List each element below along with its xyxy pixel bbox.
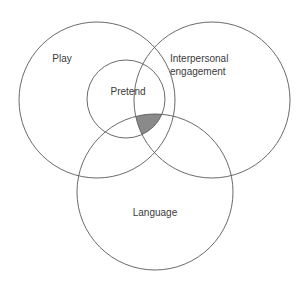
circle-language — [77, 114, 233, 270]
label-pretend: Pretend — [110, 86, 145, 97]
label-interpersonal-engagement-line2: engagement — [170, 66, 226, 77]
venn-diagram-canvas: Play Interpersonal engagement Language P… — [0, 0, 307, 282]
circle-interpersonal-engagement — [134, 22, 290, 178]
venn-diagram-figure: Play Interpersonal engagement Language P… — [0, 0, 307, 282]
label-play: Play — [52, 53, 71, 64]
label-interpersonal-engagement-line1: Interpersonal — [170, 53, 228, 64]
circle-play — [19, 22, 175, 178]
label-language: Language — [133, 207, 178, 218]
circle-pretend — [87, 60, 165, 138]
shaded-overlap-region — [136, 114, 162, 135]
